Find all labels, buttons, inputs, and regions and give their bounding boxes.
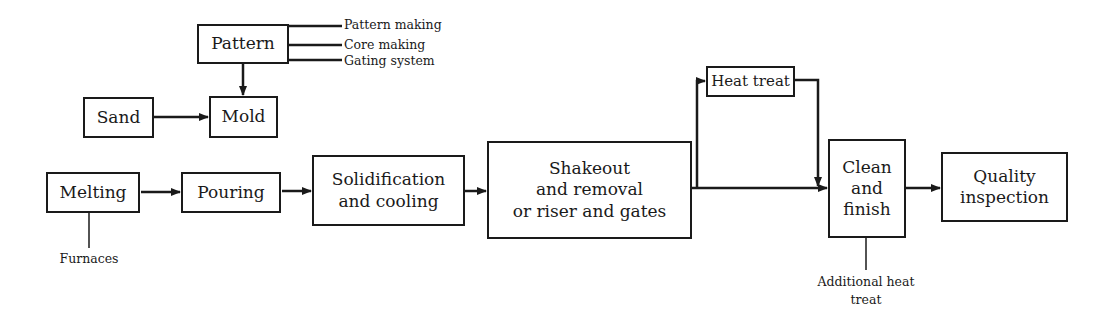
node-pouring: Pouring [181, 172, 281, 213]
node-heat-treat: Heat treat [706, 66, 795, 97]
node-pattern: Pattern [197, 24, 289, 64]
node-mold: Mold [209, 96, 278, 138]
annotation-furnaces: Furnaces [48, 251, 130, 266]
annotation-additional-heat-treat: Additional heat treat [800, 273, 932, 309]
node-quality-inspection: Quality inspection [941, 152, 1068, 222]
node-sand: Sand [83, 97, 154, 138]
node-solidification: Solidification and cooling [312, 155, 465, 226]
annotation-core-making: Core making [344, 37, 425, 52]
annotation-gating-system: Gating system [344, 53, 435, 68]
node-clean-finish: Clean and finish [828, 139, 906, 238]
node-shakeout: Shakeout and removal or riser and gates [487, 141, 692, 239]
node-melting: Melting [46, 172, 140, 213]
annotation-pattern-making: Pattern making [344, 17, 442, 32]
